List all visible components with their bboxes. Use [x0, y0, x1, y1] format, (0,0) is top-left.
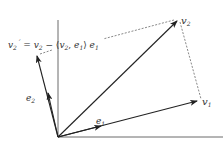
label-v1: v1: [202, 96, 211, 108]
label-v2: v2: [181, 15, 191, 27]
vector-e1: [58, 126, 101, 137]
dashed-v2-to-label: [103, 20, 174, 39]
label-e2: e2: [26, 93, 35, 104]
diagram-canvas: v2 v1 e1 e2 v2´ = v2 − ⟨v2, e1⟩ e1: [0, 0, 223, 147]
formula-v2prime: v2´ = v2 − ⟨v2, e1⟩ e1: [8, 39, 99, 51]
gram-schmidt-diagram: v2 v1 e1 e2 v2´ = v2 − ⟨v2, e1⟩ e1: [0, 0, 223, 147]
label-e1: e1: [96, 116, 105, 127]
vector-e2: [48, 93, 58, 137]
vector-v2: [58, 21, 177, 137]
dashed-v2-to-v1: [180, 22, 201, 99]
